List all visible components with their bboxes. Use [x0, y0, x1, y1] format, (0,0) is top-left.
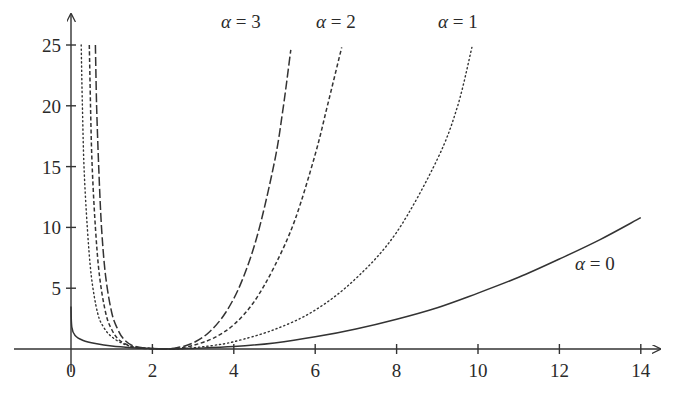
x-tick-label: 8 [392, 360, 402, 381]
x-tick-label: 6 [310, 360, 320, 381]
series-curves [71, 45, 641, 349]
y-tick-label: 20 [42, 96, 61, 117]
x-tick-label: 14 [631, 360, 651, 381]
curve-alpha-0 [71, 218, 641, 349]
series-label-alpha-1: α = 1 [438, 11, 478, 32]
series-label-alpha-2: α = 2 [316, 11, 356, 32]
series-label-alpha-0: α = 0 [575, 253, 615, 274]
x-tick-label: 0 [66, 360, 76, 381]
curve-alpha-2 [89, 45, 341, 349]
curve-alpha-1 [81, 45, 472, 349]
y-tick-label: 5 [52, 278, 62, 299]
series-label-alpha-3: α = 3 [221, 11, 261, 32]
chart: 02468101214 510152025 α = 3 α = 2 α = 1 … [0, 0, 674, 408]
x-tick-label: 12 [550, 360, 569, 381]
y-tick-label: 15 [42, 157, 61, 178]
x-tick-label: 2 [148, 360, 158, 381]
y-tick-label: 25 [42, 35, 61, 56]
y-tick-label: 10 [42, 217, 61, 238]
curve-alpha-3 [95, 45, 290, 349]
x-tick-label: 10 [469, 360, 488, 381]
x-tick-label: 4 [229, 360, 239, 381]
